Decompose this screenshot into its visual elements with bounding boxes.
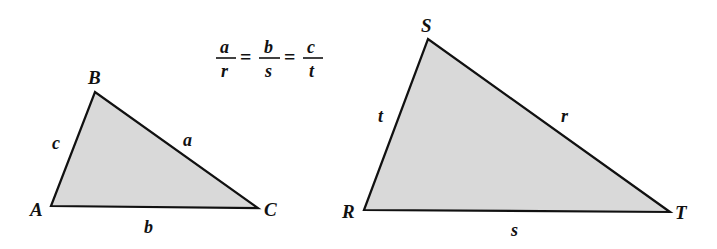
equals-sign-2: = xyxy=(284,46,295,68)
side-b-label: b xyxy=(144,217,153,237)
fraction-3-denominator: t xyxy=(309,61,315,81)
side-s-label: s xyxy=(510,220,518,240)
vertex-s-label: S xyxy=(421,15,432,36)
vertex-t-label: T xyxy=(675,202,688,223)
vertex-c-label: C xyxy=(264,199,277,220)
side-r-label: r xyxy=(561,106,569,126)
fraction-2-numerator: b xyxy=(264,37,273,57)
triangle-abc xyxy=(51,92,258,208)
ratio-formula: a r = b s = c t xyxy=(216,37,323,81)
side-t-label: t xyxy=(378,106,384,126)
side-a-label: a xyxy=(183,130,192,150)
triangle-rst xyxy=(364,39,670,212)
fraction-3-numerator: c xyxy=(307,37,315,57)
equals-sign-1: = xyxy=(240,46,251,68)
fraction-1-numerator: a xyxy=(220,37,229,57)
fraction-1-denominator: r xyxy=(221,61,229,81)
vertex-r-label: R xyxy=(341,201,355,222)
vertex-a-label: A xyxy=(29,199,43,220)
similar-triangles-diagram: A B C a b c a r = b s = c t R S T r s t xyxy=(0,0,717,249)
fraction-2-denominator: s xyxy=(264,61,272,81)
vertex-b-label: B xyxy=(87,67,101,88)
side-c-label: c xyxy=(52,133,60,153)
